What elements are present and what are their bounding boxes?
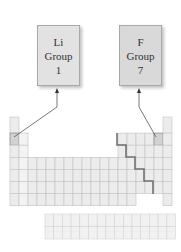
element-cell xyxy=(10,157,19,169)
element-cell xyxy=(109,194,118,206)
f-arrow xyxy=(137,88,156,137)
f-block-cell xyxy=(45,227,54,240)
element-cell xyxy=(118,133,127,145)
element-cell xyxy=(10,194,19,206)
element-cell xyxy=(163,157,172,169)
element-cell xyxy=(28,182,37,194)
element-cell xyxy=(10,182,19,194)
f-block-cell xyxy=(97,214,106,227)
element-cell xyxy=(136,157,145,169)
f-block-cell xyxy=(106,227,115,240)
element-cell xyxy=(37,157,46,169)
periodic-table-grid xyxy=(10,117,172,206)
element-cell xyxy=(64,182,73,194)
element-cell xyxy=(136,145,145,157)
element-cell xyxy=(118,169,127,181)
element-cell xyxy=(154,157,163,169)
f-block-cell xyxy=(115,214,124,227)
element-cell xyxy=(82,157,91,169)
f-block-cell xyxy=(89,214,98,227)
element-cell xyxy=(28,194,37,206)
f-block-cell xyxy=(132,214,141,227)
element-cell xyxy=(19,194,28,206)
f-block-cell xyxy=(80,227,89,240)
element-cell xyxy=(127,145,136,157)
element-cell xyxy=(55,169,64,181)
element-cell xyxy=(64,194,73,206)
element-cell xyxy=(73,157,82,169)
element-cell xyxy=(28,157,37,169)
element-cell xyxy=(163,117,172,133)
element-cell xyxy=(100,157,109,169)
element-cell xyxy=(109,182,118,194)
f-block-cell xyxy=(54,214,63,227)
f-block-cell xyxy=(71,227,80,240)
element-cell xyxy=(19,182,28,194)
element-cell xyxy=(46,194,55,206)
f-block-cell xyxy=(167,227,176,240)
element-cell xyxy=(154,145,163,157)
element-cell xyxy=(46,157,55,169)
element-cell xyxy=(82,194,91,206)
element-cell xyxy=(100,194,109,206)
f-block-cell xyxy=(123,214,132,227)
element-cell xyxy=(145,169,154,181)
element-cell xyxy=(10,169,19,181)
element-cell xyxy=(163,194,172,206)
f-block-cell xyxy=(149,227,158,240)
f-block-cell xyxy=(158,227,167,240)
element-cell xyxy=(82,169,91,181)
element-cell xyxy=(91,194,100,206)
f-block-cell xyxy=(71,214,80,227)
element-cell xyxy=(55,194,64,206)
f-block-cell xyxy=(54,227,63,240)
element-cell xyxy=(64,169,73,181)
element-cell xyxy=(37,169,46,181)
element-cell xyxy=(109,169,118,181)
element-cell xyxy=(127,169,136,181)
f-block-cell xyxy=(80,214,89,227)
f-block-cell xyxy=(141,227,150,240)
element-cell xyxy=(91,182,100,194)
element-cell xyxy=(46,169,55,181)
element-cell xyxy=(127,194,136,206)
element-cell xyxy=(127,133,136,145)
f-block-cell xyxy=(132,227,141,240)
element-cell xyxy=(73,169,82,181)
f-block-cell xyxy=(158,214,167,227)
element-cell xyxy=(73,194,82,206)
periodic-table-diagram xyxy=(0,0,181,252)
f-block-cell xyxy=(167,214,176,227)
element-cell xyxy=(163,182,172,194)
element-cell xyxy=(109,157,118,169)
element-cell xyxy=(136,133,145,145)
element-cell xyxy=(154,182,163,194)
element-cell xyxy=(19,133,28,145)
element-cell xyxy=(127,182,136,194)
li-arrow xyxy=(14,88,59,137)
f-block-cell xyxy=(45,214,54,227)
element-cell xyxy=(100,182,109,194)
element-cell xyxy=(100,169,109,181)
element-cell xyxy=(10,117,19,133)
element-cell xyxy=(55,182,64,194)
element-cell xyxy=(37,182,46,194)
element-cell xyxy=(154,169,163,181)
f-block-cell xyxy=(115,227,124,240)
element-cell xyxy=(163,169,172,181)
element-cell xyxy=(91,169,100,181)
f-block-cell xyxy=(62,214,71,227)
f-block-cell xyxy=(62,227,71,240)
element-cell xyxy=(118,194,127,206)
f-block-cell xyxy=(106,214,115,227)
element-cell xyxy=(82,182,91,194)
element-cell xyxy=(64,157,73,169)
element-cell xyxy=(19,157,28,169)
element-cell xyxy=(10,145,19,157)
element-cell xyxy=(73,182,82,194)
f-block-grid xyxy=(45,214,176,239)
f-block-cell xyxy=(97,227,106,240)
element-cell xyxy=(145,133,154,145)
f-block-cell xyxy=(141,214,150,227)
element-cell xyxy=(55,157,64,169)
